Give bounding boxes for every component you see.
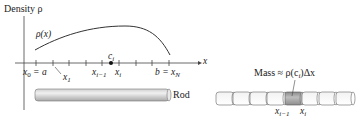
- segment-6: [302, 92, 321, 105]
- tick-label-x0: x0 = a: [23, 68, 47, 79]
- segment-4: [267, 92, 287, 105]
- density-curve: [35, 26, 170, 55]
- tick-label-xi-minus-1: xi−1: [92, 68, 106, 79]
- x1-leader-line: [55, 67, 61, 74]
- tick-label-b-xN: b = xN: [155, 68, 180, 79]
- sample-point-label: ci: [108, 52, 114, 63]
- x-axis-arrow-icon: [198, 61, 202, 65]
- curve-label: ρ(x): [36, 30, 51, 40]
- segment-7: [319, 92, 338, 105]
- segmented-rod: [216, 92, 355, 105]
- tick-label-xi: xi: [115, 68, 121, 79]
- segment-right-label: xi: [300, 107, 306, 118]
- rod-label: Rod: [173, 90, 190, 100]
- segment-highlighted: [285, 92, 304, 105]
- mass-approximation-label: Mass ≈ ρ(ci)Δx: [254, 68, 315, 80]
- tick-label-x1: x1: [63, 73, 71, 84]
- y-axis-label: Density ρ: [4, 4, 43, 14]
- segment-8: [336, 92, 355, 105]
- x-axis-label: x: [203, 57, 207, 67]
- rod: [35, 89, 171, 101]
- diagram-canvas: [0, 0, 364, 120]
- segment-left-label: xi−1: [275, 107, 289, 118]
